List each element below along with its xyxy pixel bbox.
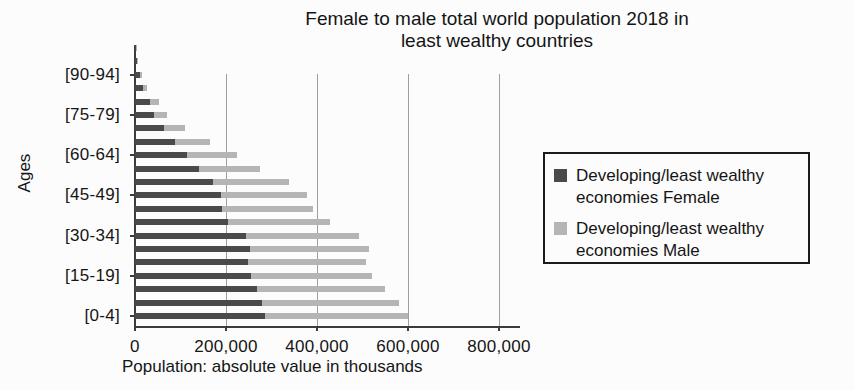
bar-[30-34]-female xyxy=(135,233,246,239)
y-tick-mark-[0-4] xyxy=(130,315,134,317)
y-tick-label-[75-79]: [75-79] xyxy=(38,105,120,125)
x-tick-mark-600000 xyxy=(407,326,409,331)
y-tick-mark-[15-19] xyxy=(130,275,134,277)
x-tick-label-200000: 200,000 xyxy=(178,337,274,357)
bar-[10-14]-male xyxy=(257,286,385,292)
bar-[30-34]-male xyxy=(246,233,360,239)
bar-[45-49]-male xyxy=(221,192,307,198)
bar-[40-44]-female xyxy=(135,206,222,212)
bar-[55-59]-male xyxy=(199,166,260,172)
bar-[75-79]-female xyxy=(135,112,154,118)
legend-item-male: Developing/least wealthy economies Male xyxy=(554,218,800,262)
bar-[80-84]-female xyxy=(135,99,150,105)
bar-[45-49]-female xyxy=(135,192,221,198)
y-tick-label-[60-64]: [60-64] xyxy=(38,145,120,165)
bar-[40-44]-male xyxy=(222,206,313,212)
bar-[70-74]-female xyxy=(135,125,164,131)
x-tick-label-600000: 600,000 xyxy=(360,337,456,357)
y-tick-label-[0-4]: [0-4] xyxy=(38,306,120,326)
bar-[65-69]-male xyxy=(175,139,210,145)
bar-[85-89]-male xyxy=(143,85,147,91)
x-tick-label-800000: 800,000 xyxy=(451,337,547,357)
y-tick-label-[15-19]: [15-19] xyxy=(38,266,120,286)
bar-[15-19]-male xyxy=(251,273,372,279)
y-tick-label-[45-49]: [45-49] xyxy=(38,185,120,205)
y-tick-mark-[60-64] xyxy=(130,154,134,156)
bar-[70-74]-male xyxy=(164,125,185,131)
gridline-800000 xyxy=(499,74,500,326)
bar-[80-84]-male xyxy=(150,99,159,105)
bar-[5-9]-female xyxy=(135,300,262,306)
bar-[25-29]-female xyxy=(135,246,250,252)
legend-item-female: Developing/least wealthy economies Femal… xyxy=(554,165,800,209)
x-axis-title: Population: absolute value in thousands xyxy=(122,357,423,377)
chart-title-line-2: least wealthy countries xyxy=(140,30,854,52)
x-tick-label-400000: 400,000 xyxy=(269,337,365,357)
x-tick-mark-800000 xyxy=(498,326,500,331)
y-tick-label-[90-94]: [90-94] xyxy=(38,65,120,85)
y-axis-title: Ages xyxy=(15,143,35,203)
bar-[5-9]-male xyxy=(262,300,399,306)
bar-[35-39]-female xyxy=(135,219,228,225)
legend-item-male-label: Developing/least wealthy economies Male xyxy=(576,218,764,262)
bar-[20-24]-male xyxy=(248,259,366,265)
bar-[75-79]-male xyxy=(154,112,167,118)
bar-[0-4]-female xyxy=(135,313,265,319)
bar-[50-54]-male xyxy=(213,179,289,185)
y-tick-mark-[75-79] xyxy=(130,114,134,116)
x-axis-line xyxy=(134,326,520,328)
x-tick-mark-200000 xyxy=(225,326,227,331)
bar-[10-14]-female xyxy=(135,286,257,292)
gridline-600000 xyxy=(408,74,409,326)
bar-[60-64]-female xyxy=(135,152,187,158)
legend-male-line-1: Developing/least wealthy xyxy=(576,218,764,240)
y-tick-mark-[45-49] xyxy=(130,194,134,196)
y-tick-label-[30-34]: [30-34] xyxy=(38,226,120,246)
y-tick-mark-[90-94] xyxy=(130,74,134,76)
chart-title-line-1: Female to male total world population 20… xyxy=(140,8,854,30)
bar-[90-94]-male xyxy=(140,72,142,78)
chart-title: Female to male total world population 20… xyxy=(140,8,854,52)
legend-item-female-label: Developing/least wealthy economies Femal… xyxy=(576,165,764,209)
bar-[55-59]-female xyxy=(135,166,199,172)
x-tick-mark-400000 xyxy=(316,326,318,331)
male-series-swatch xyxy=(554,222,567,235)
bar-[0-4]-male xyxy=(265,313,408,319)
bar-[20-24]-female xyxy=(135,259,248,265)
bar-[15-19]-female xyxy=(135,273,251,279)
legend: Developing/least wealthy economies Femal… xyxy=(543,152,810,264)
bar-[65-69]-female xyxy=(135,139,175,145)
bar-[50-54]-female xyxy=(135,179,213,185)
x-tick-mark-0 xyxy=(134,326,136,331)
population-pyramid-chart: Female to male total world population 20… xyxy=(0,0,854,390)
bar-[85-89]-female xyxy=(135,85,143,91)
bar-[95-99]-male xyxy=(137,58,138,64)
bar-[25-29]-male xyxy=(250,246,369,252)
female-series-swatch xyxy=(554,169,567,182)
bar-[35-39]-male xyxy=(228,219,330,225)
legend-male-line-2: economies Male xyxy=(576,240,764,262)
legend-female-line-2: economies Female xyxy=(576,187,764,209)
bar-[100+]-male xyxy=(136,45,137,51)
bar-[60-64]-male xyxy=(187,152,237,158)
legend-female-line-1: Developing/least wealthy xyxy=(576,165,764,187)
y-tick-mark-[30-34] xyxy=(130,235,134,237)
x-tick-label-0: 0 xyxy=(87,337,183,357)
